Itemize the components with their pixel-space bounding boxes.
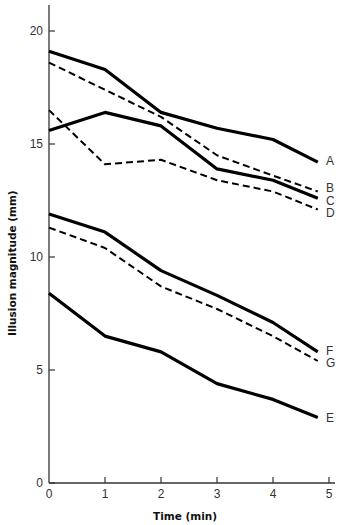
y-tick-label: 0 (36, 476, 43, 490)
y-tick-label: 5 (36, 363, 43, 377)
x-tick-label: 3 (214, 487, 221, 501)
series-label-g: G (326, 356, 335, 370)
x-tick-label: 2 (158, 487, 165, 501)
x-axis-title: Time (min) (153, 510, 217, 522)
x-ticks: 012345 (46, 477, 333, 501)
series-line-f (49, 214, 318, 352)
y-tick-label: 20 (30, 24, 44, 38)
x-tick-label: 5 (326, 487, 333, 501)
series-label-e: E (326, 411, 334, 425)
series-label-d: D (326, 206, 335, 220)
series-labels: ABCDEFG (326, 154, 335, 425)
x-tick-label: 1 (102, 487, 109, 501)
y-axis-title: Illusion magnitude (mm) (6, 190, 18, 336)
line-chart: 05101520 012345 ABCDEFG Time (min) Illus… (0, 0, 343, 525)
series-label-b: B (326, 181, 334, 195)
y-tick-label: 15 (30, 137, 44, 151)
series-line-g (49, 228, 318, 361)
x-tick-label: 0 (46, 487, 53, 501)
series-line-d (49, 110, 318, 209)
series-group (49, 51, 318, 417)
series-line-a (49, 51, 318, 162)
axes: 05101520 012345 (30, 5, 335, 501)
y-ticks: 05101520 (30, 24, 55, 490)
series-line-b (49, 63, 318, 192)
series-line-e (49, 293, 318, 417)
y-tick-label: 10 (30, 250, 44, 264)
x-tick-label: 4 (270, 487, 277, 501)
series-line-c (49, 112, 318, 198)
series-label-a: A (326, 154, 334, 168)
